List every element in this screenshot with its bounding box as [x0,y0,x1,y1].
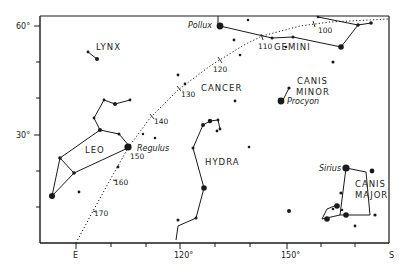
dec-label-60: 60° [16,22,30,31]
star-chart: 60° 30° E 120° 150° S 100 110 120 130 14… [0,0,412,273]
ecliptic-mark-110: 110 [258,42,273,51]
ecliptic-mark-130: 130 [181,90,196,99]
ra-label-east: E [73,251,78,260]
ecliptic-mark-100: 100 [318,26,333,35]
constellation-canis-major-2: MAJOR [355,190,388,200]
star-label-regulus: Regulus [137,144,169,153]
ecliptic-mark-170: 170 [94,209,109,218]
constellation-lynx: LYNX [96,42,121,52]
constellation-hydra: HYDRA [205,157,240,167]
constellation-canis-minor-2: MINOR [296,87,330,97]
dec-label-30: 30° [16,131,30,140]
ra-label-120: 120° [174,251,193,260]
ecliptic-mark-140: 140 [154,117,169,126]
constellation-gemini: GEMINI [274,42,311,52]
constellation-canis-major-1: CANIS [355,179,386,189]
constellation-canis-minor-1: CANIS [297,76,328,86]
chart-frame [40,16,389,243]
left-axis-ticks [34,26,40,207]
ecliptic-mark-150: 150 [130,152,145,161]
ra-label-south: S [389,251,394,260]
constellation-cancer: CANCER [201,83,242,93]
star-label-sirius: Sirius [319,164,341,173]
bottom-axis-ticks [76,243,355,249]
ecliptic-mark-160: 160 [114,178,129,187]
ra-label-150: 150° [281,251,300,260]
star-label-procyon: Procyon [287,97,319,106]
star-label-pollux: Pollux [188,21,212,30]
constellation-leo: LEO [85,145,105,155]
ecliptic-mark-120: 120 [213,65,228,74]
